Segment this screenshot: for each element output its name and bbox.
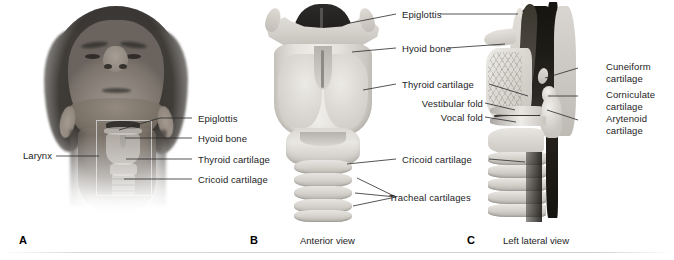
hair-left-region [44,30,90,152]
overlay-cricoid-cartilage [110,163,137,176]
label-c-cuneiform-line1: Cuneiform [606,61,651,72]
label-a-larynx: Larynx [0,150,52,161]
label-c-cuneiform-cartilage: Cuneiform cartilage [606,61,672,84]
b-tracheal-ring [294,210,352,222]
nostril-right [119,64,127,69]
label-c-corniculate-line1: Corniculate [606,89,655,100]
label-a-cricoid-cartilage: Cricoid cartilage [198,174,268,185]
hair-right-region [140,30,188,154]
b-tracheal-ring [294,160,352,174]
panel-letter-c: C [467,234,475,246]
label-c-vestibular-fold: Vestibular fold [405,98,483,109]
mouth [102,88,131,93]
hair-region [48,6,184,134]
c-thyroid-membrane-texture [488,52,522,114]
eyebrow-right [120,40,148,49]
b-tracheal-ring [294,186,352,200]
larynx-anatomy-figure: Larynx Epiglottis Hyoid bone Thyroid car… [0,0,674,260]
c-vocal-fold-shape [490,116,546,126]
panel-c-lateral-illustration [480,2,610,224]
label-b-cricoid-cartilage: Cricoid cartilage [402,154,472,165]
panel-a-photograph [18,2,214,220]
nose [103,46,128,72]
label-b-tracheal-cartilages: Tracheal cartilages [389,192,471,203]
bottom-divider-rule [0,252,674,253]
label-b-hyoid-bone: Hyoid bone [402,43,451,54]
label-b-thyroid-cartilage: Thyroid cartilage [402,79,474,90]
c-tracheal-lumen [526,152,542,222]
label-a-epiglottis: Epiglottis [198,113,238,124]
overlay-trachea [112,174,135,198]
overlay-thyroid-cartilage [106,133,140,165]
label-a-hyoid-bone: Hyoid bone [198,133,247,144]
b-laryngeal-prominence [314,46,332,90]
ear-right [155,105,175,139]
panel-letter-a: A [19,234,27,246]
caption-anterior-view: Anterior view [300,235,355,246]
neck-shadow-right [144,130,166,206]
overlay-hyoid-bone [104,127,142,135]
neck-region [78,128,156,214]
nostril-left [104,64,112,69]
c-cricoid-cartilage-shape [488,128,544,154]
label-c-corniculate-cartilage: Corniculate cartilage [606,89,674,112]
label-c-vocal-fold: Vocal fold [405,112,483,123]
b-tracheal-ring [294,173,352,187]
overlay-epiglottis [106,121,140,129]
jaw-region [70,98,162,144]
c-vestibular-fold-shape [490,106,542,115]
label-c-corniculate-line2: cartilage [606,101,643,112]
caption-left-lateral-view: Left lateral view [503,235,569,246]
panel-letter-b: B [250,234,258,246]
label-b-epiglottis: Epiglottis [402,9,442,20]
label-c-arytenoid-line1: Arytenoid [606,113,647,124]
larynx-overlay-box [96,120,152,196]
label-c-arytenoid-cartilage: Arytenoid cartilage [606,113,672,136]
head-photograph [40,2,192,216]
b-trachea-shape [294,160,352,222]
label-c-arytenoid-line2: cartilage [606,125,643,136]
neck-shadow-left [70,130,90,206]
eye-left [85,54,100,59]
label-a-thyroid-cartilage: Thyroid cartilage [198,154,270,165]
eye-right [126,54,141,59]
label-c-cuneiform-line2: cartilage [606,73,643,84]
eyebrow-left [81,40,109,49]
panel-b-anterior-illustration [256,2,406,224]
face-region [68,20,164,144]
ear-left [57,105,77,139]
